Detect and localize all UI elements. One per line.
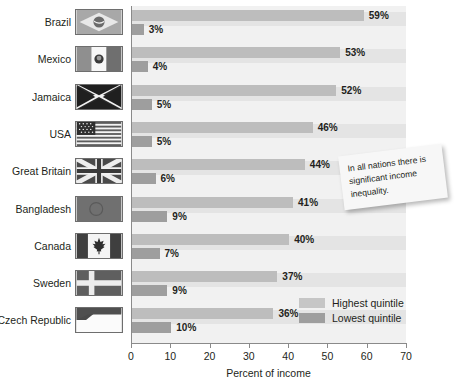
- bar-value-highest: 59%: [369, 10, 389, 21]
- legend-label-highest: Highest quintile: [332, 297, 404, 309]
- bar-value-lowest: 3%: [149, 24, 163, 35]
- bar-highest-quintile: [132, 10, 364, 21]
- bar-value-lowest: 5%: [157, 136, 171, 147]
- x-axis-line: [131, 343, 406, 344]
- flag-sweden-icon: [75, 270, 123, 296]
- flag-bangladesh-icon: [75, 196, 123, 222]
- country-label: Bangladesh: [16, 203, 71, 215]
- bar-value-lowest: 9%: [172, 285, 186, 296]
- country-label: Great Britain: [12, 165, 71, 177]
- bar-value-highest: 37%: [282, 271, 302, 282]
- flag-czech-republic-icon: [75, 307, 123, 333]
- callout-note: In all nations there is significant inco…: [338, 144, 448, 210]
- x-tick-label: 30: [243, 350, 255, 362]
- x-tick: [367, 343, 368, 348]
- x-tick: [249, 343, 250, 348]
- flag-canada-icon: [75, 233, 123, 259]
- country-label: Czech Republic: [0, 314, 71, 326]
- country-label: Brazil: [45, 16, 71, 28]
- x-tick: [131, 343, 132, 348]
- x-tick: [210, 343, 211, 348]
- bar-highest-quintile: [132, 271, 277, 282]
- bar-highest-quintile: [132, 234, 289, 245]
- legend-swatch-lowest: [299, 313, 325, 323]
- bar-lowest-quintile: [132, 285, 167, 296]
- bar-value-lowest: 4%: [153, 61, 167, 72]
- bar-lowest-quintile: [132, 136, 152, 147]
- x-tick-label: 50: [322, 350, 334, 362]
- bar-value-highest: 52%: [341, 85, 361, 96]
- income-inequality-chart: 010203040506070 Percent of income Brazil…: [0, 0, 455, 389]
- flag-mexico-icon: [75, 46, 123, 72]
- bar-value-lowest: 10%: [176, 322, 196, 333]
- legend-label-lowest: Lowest quintile: [332, 312, 401, 324]
- bar-value-lowest: 6%: [161, 173, 175, 184]
- bar-value-lowest: 9%: [172, 211, 186, 222]
- bar-highest-quintile: [132, 159, 305, 170]
- x-axis-label: Percent of income: [131, 367, 406, 379]
- legend-swatch-highest: [299, 298, 325, 308]
- country-label: Sweden: [33, 277, 71, 289]
- x-tick-label: 20: [204, 350, 216, 362]
- bar-highest-quintile: [132, 47, 340, 58]
- bar-lowest-quintile: [132, 322, 171, 333]
- flag-jamaica-icon: [75, 84, 123, 110]
- bar-value-highest: 53%: [345, 47, 365, 58]
- bar-lowest-quintile: [132, 173, 156, 184]
- chart-legend: Highest quintile Lowest quintile: [299, 296, 404, 326]
- bar-highest-quintile: [132, 85, 336, 96]
- x-tick-label: 0: [128, 350, 134, 362]
- bar-lowest-quintile: [132, 24, 144, 35]
- legend-item-highest: Highest quintile: [299, 296, 404, 309]
- bar-highest-quintile: [132, 308, 273, 319]
- x-tick: [288, 343, 289, 348]
- x-tick-label: 10: [164, 350, 176, 362]
- bar-highest-quintile: [132, 197, 293, 208]
- bar-lowest-quintile: [132, 61, 148, 72]
- bar-value-highest: 36%: [278, 308, 298, 319]
- country-label: Canada: [34, 240, 71, 252]
- legend-item-lowest: Lowest quintile: [299, 311, 404, 324]
- x-tick-label: 40: [282, 350, 294, 362]
- x-tick: [170, 343, 171, 348]
- x-tick-label: 70: [400, 350, 412, 362]
- flag-brazil-icon: [75, 9, 123, 35]
- flag-usa-icon: [75, 121, 123, 147]
- bar-value-lowest: 5%: [157, 99, 171, 110]
- bar-value-highest: 40%: [294, 234, 314, 245]
- bar-lowest-quintile: [132, 99, 152, 110]
- x-tick: [406, 343, 407, 348]
- country-label: Jamaica: [32, 91, 71, 103]
- bar-value-highest: 46%: [318, 122, 338, 133]
- bar-value-highest: 41%: [298, 197, 318, 208]
- country-label: USA: [49, 128, 71, 140]
- flag-great-britain-icon: [75, 158, 123, 184]
- x-tick: [327, 343, 328, 348]
- bar-lowest-quintile: [132, 211, 167, 222]
- x-tick-label: 60: [361, 350, 373, 362]
- bar-value-highest: 44%: [310, 159, 330, 170]
- bar-lowest-quintile: [132, 248, 160, 259]
- bar-value-lowest: 7%: [165, 248, 179, 259]
- country-label: Mexico: [38, 53, 71, 65]
- bar-highest-quintile: [132, 122, 313, 133]
